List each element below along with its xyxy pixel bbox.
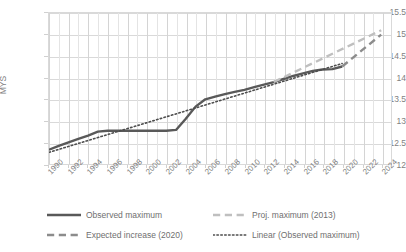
legend-label: Expected increase (2020) <box>86 230 183 240</box>
series-line <box>49 63 342 152</box>
chart-legend: Observed maximumExpected increase (2020)… <box>0 208 406 252</box>
legend-item[interactable]: Linear (Observed maximum) <box>213 230 360 240</box>
plot-area <box>48 12 392 165</box>
legend-item[interactable]: Expected increase (2020) <box>47 230 183 240</box>
y-axis-title: MYS <box>0 76 8 94</box>
legend-item[interactable]: Observed maximum <box>47 210 162 220</box>
legend-label: Proj. maximum (2013) <box>252 210 336 220</box>
legend-item[interactable]: Proj. maximum (2013) <box>213 210 336 220</box>
legend-label: Linear (Observed maximum) <box>252 230 360 240</box>
legend-label: Observed maximum <box>86 210 162 220</box>
legend-swatch-icon <box>213 230 247 240</box>
chart-root: MYS 1212.51313.51414.51515.5 19901992199… <box>0 0 406 252</box>
series-line <box>274 30 381 82</box>
legend-swatch-icon <box>47 210 81 220</box>
series-layer <box>49 13 391 164</box>
legend-swatch-icon <box>213 210 247 220</box>
plot-wrapper: MYS 1212.51313.51414.51515.5 19901992199… <box>0 0 406 205</box>
legend-swatch-icon <box>47 230 81 240</box>
